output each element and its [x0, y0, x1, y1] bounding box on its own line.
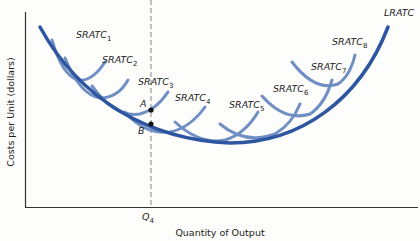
- label-point-b: B: [138, 125, 145, 136]
- label-lratc: LRATC: [384, 7, 415, 18]
- label-sratc-2: SRATC2: [102, 54, 137, 68]
- label-point-a: A: [139, 98, 147, 109]
- label-sratc-4: SRATC4: [175, 92, 211, 106]
- label-sratc-5: SRATC5: [229, 99, 264, 113]
- label-sratc-3: SRATC3: [138, 76, 173, 90]
- label-sratc-1: SRATC1: [76, 29, 111, 43]
- label-sratc-6: SRATC6: [273, 83, 309, 97]
- point-b-dot: [148, 121, 153, 126]
- point-a-dot: [148, 107, 153, 112]
- sratc-curves: [52, 40, 355, 141]
- x-tick-q4: Q4: [142, 211, 154, 225]
- cost-curves-chart: SRATC1 SRATC2 SRATC3 SRATC4 SRATC5 SRATC…: [0, 0, 420, 241]
- label-sratc-8: SRATC8: [332, 36, 367, 50]
- y-axis-title: Costs per Unit (dollars): [5, 57, 16, 166]
- x-axis-title: Quantity of Output: [175, 227, 265, 238]
- label-sratc-7: SRATC7: [311, 61, 346, 75]
